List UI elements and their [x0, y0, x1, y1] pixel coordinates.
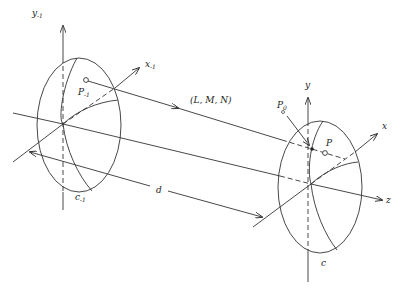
- right-x-axis-label: x: [382, 121, 387, 131]
- ray-segment-2: [176, 108, 282, 141]
- left-point-p-1: [84, 78, 89, 83]
- right-meridian-arc: [309, 121, 337, 250]
- right-y-axis-label: y: [304, 80, 311, 90]
- ray-segment-1: [88, 81, 178, 108]
- right-intercept-label: P0: [276, 100, 287, 111]
- ray-transfer-diagram: y-1 x-1 P-1 c-1 (L, M, N) d y x z P0 P c: [0, 0, 401, 292]
- z-axis-right: [311, 184, 382, 200]
- distance-label: d: [156, 185, 162, 195]
- distance-line-right: [168, 191, 262, 217]
- left-surface-group: [13, 26, 139, 210]
- right-x-axis: [355, 134, 377, 152]
- left-point-label: P-1: [77, 87, 90, 98]
- ray-direction-label: (L, M, N): [190, 95, 232, 105]
- left-y-axis-label: y-1: [31, 8, 43, 19]
- left-surface-label: c-1: [75, 192, 86, 203]
- left-x-axis: [115, 68, 139, 88]
- right-x-axis-back: [253, 184, 311, 227]
- right-x-axis-hidden: [311, 152, 355, 184]
- right-z-axis-label: z: [385, 195, 391, 205]
- left-x-axis-back: [13, 124, 63, 162]
- right-intercept-p0: [310, 147, 314, 151]
- right-horizontal-arc: [311, 162, 358, 184]
- right-point-label: P: [325, 138, 333, 148]
- left-horizontal-arc: [63, 100, 118, 124]
- z-axis: [63, 124, 280, 176]
- z-axis-left-extension: [13, 113, 63, 124]
- z-axis-hidden: [280, 176, 311, 184]
- right-surface-label: c: [321, 258, 326, 268]
- distance-line-left: [30, 152, 150, 186]
- right-surface-group: [253, 98, 377, 282]
- left-x-axis-label: x-1: [145, 59, 156, 70]
- right-surface-ellipse: [278, 121, 362, 253]
- right-point-p: [323, 151, 328, 156]
